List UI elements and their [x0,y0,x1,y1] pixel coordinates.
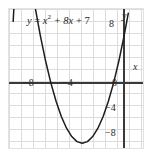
equation-annotation: y = x2 + 8x + 7 [27,14,90,26]
y-axis-label: y [122,11,126,21]
equation-term1-exponent: 2 [48,13,52,21]
equation-term2: + 8x [54,15,74,26]
y-tick-label-0: 0 [112,78,117,88]
equation-equals: = [34,15,40,26]
x-tick-label-neg8: −8 [23,78,34,88]
graph-figure: y = x2 + 8x + 7 −8 −4 8 0 −4 −8 x y [0,0,150,155]
equation-term3: + 7 [76,15,90,26]
y-tick-label-neg4: −4 [105,103,116,113]
y-tick-label-8: 8 [109,19,114,29]
x-axis-label: x [133,62,137,72]
y-tick-label-neg8: −8 [105,128,116,138]
x-tick-label-neg4: −4 [62,78,73,88]
equation-lhs: y [27,15,32,26]
